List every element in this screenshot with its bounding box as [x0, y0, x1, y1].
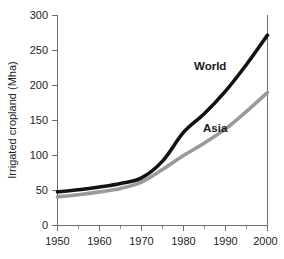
y-axis-title: Irrigated cropland (Mha) [6, 61, 18, 178]
series-group [58, 35, 268, 197]
y-axis-ticks [52, 16, 58, 226]
y-tick-label-100: 100 [30, 149, 48, 161]
x-tick-label-1960: 1960 [87, 235, 111, 247]
y-tick-label-250: 250 [30, 44, 48, 56]
y-tick-label-300: 300 [30, 9, 48, 21]
y-tick-label-200: 200 [30, 79, 48, 91]
x-axis-tick-labels: 1950 1960 1970 1980 1990 2000 [45, 235, 277, 247]
x-tick-label-1990: 1990 [213, 235, 237, 247]
x-axis-minor-ticks [79, 226, 247, 230]
y-tick-label-150: 150 [30, 114, 48, 126]
x-tick-label-1950: 1950 [45, 235, 69, 247]
series-annotations: World Asia [194, 60, 228, 134]
x-tick-label-1970: 1970 [129, 235, 153, 247]
y-axis-tick-labels: 300 250 200 150 100 50 0 [30, 9, 48, 231]
series-label-asia: Asia [203, 122, 228, 134]
chart-figure: 300 250 200 150 100 50 0 1950 [0, 0, 284, 259]
line-chart-canvas: 300 250 200 150 100 50 0 1950 [0, 0, 284, 259]
x-tick-label-2000: 2000 [253, 235, 277, 247]
y-tick-label-50: 50 [36, 184, 48, 196]
series-label-world: World [194, 60, 226, 72]
x-tick-label-1980: 1980 [171, 235, 195, 247]
series-line-asia [58, 93, 268, 197]
y-tick-label-0: 0 [42, 219, 48, 231]
